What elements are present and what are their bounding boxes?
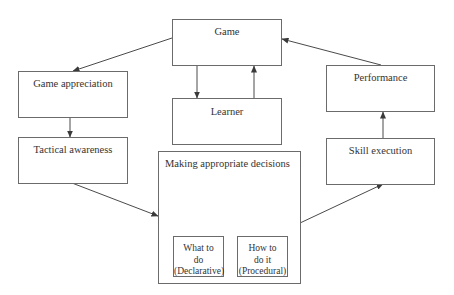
node-performance: Performance [326,65,435,112]
arrow-performance-to-game [282,39,381,65]
what-line-2: do [174,255,223,267]
what-line-3: (Declarative) [174,266,223,278]
node-performance-label: Performance [327,72,434,83]
node-tactical-awareness: Tactical awareness [18,137,128,184]
node-tactical-awareness-label: Tactical awareness [19,144,127,155]
node-game-appreciation-label: Game appreciation [19,78,127,89]
node-game-appreciation: Game appreciation [18,71,128,118]
arrow-decisions-to-skill [300,184,383,223]
how-line-3: (Procedural) [238,266,287,278]
node-making-decisions: Making appropriate decisions What to do … [158,151,301,284]
node-skill-execution: Skill execution [326,138,435,185]
how-line-1: How to [238,243,287,255]
node-skill-execution-label: Skill execution [327,145,434,156]
arrow-game-to-appreciation [73,38,172,71]
what-line-1: What to [174,243,223,255]
node-game-label: Game [173,26,281,37]
node-what-to-do: What to do (Declarative) [173,236,224,277]
node-learner: Learner [172,98,282,145]
node-how-to-do-it: How to do it (Procedural) [237,236,288,277]
node-learner-label: Learner [173,106,281,117]
node-game: Game [172,19,282,66]
node-making-decisions-label: Making appropriate decisions [165,158,290,169]
how-line-2: do it [238,255,287,267]
arrow-tactical-to-decisions [72,183,158,216]
